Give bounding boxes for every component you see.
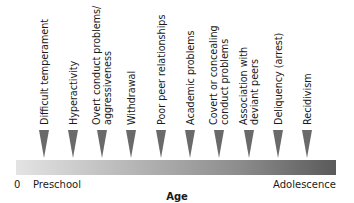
stage-label: Recidivism (294, 0, 320, 125)
arrow-down-icon (273, 130, 283, 158)
stage-label-line: Association with (238, 47, 249, 125)
stage-label: Difficult temperament (31, 0, 57, 125)
stage-label: Academic problems (177, 0, 203, 125)
stage-label-line: Hyperactivity (68, 61, 79, 125)
stage-label-line: Poor peer relationships (156, 15, 167, 125)
axis-start-label: Preschool (33, 179, 81, 190)
stage-label-line: deviant peers (249, 47, 260, 125)
stage-label-line: Recidivism (302, 73, 313, 125)
stage-label: Withdrawal (118, 0, 144, 125)
stage-label: Deliquency (arrest) (265, 0, 291, 125)
arrow-down-icon (39, 130, 49, 158)
stage-label-line: Difficult temperament (39, 19, 50, 125)
stage-label: Overt conduct problems/aggressiveness (89, 0, 115, 125)
arrow-down-icon (68, 130, 78, 158)
stage-label: Covert or concealingconduct problems (206, 0, 232, 125)
arrow-down-icon (302, 130, 312, 158)
stage-label: Hyperactivity (60, 0, 86, 125)
stage-label-line: Covert or concealing (208, 25, 219, 125)
age-gradient-bar (16, 160, 336, 175)
arrow-down-icon (185, 130, 195, 158)
axis-zero-label: 0 (14, 179, 20, 190)
arrow-down-icon (97, 130, 107, 158)
stage-label-line: aggressiveness (102, 6, 113, 125)
axis-title: Age (0, 191, 354, 202)
stage-label-line: Deliquency (arrest) (273, 33, 284, 125)
arrow-down-icon (156, 130, 166, 158)
axis-end-label: Adolescence (273, 179, 336, 190)
stage-label-line: Withdrawal (126, 71, 137, 125)
arrow-down-icon (126, 130, 136, 158)
stage-label-line: Overt conduct problems/ (91, 6, 102, 125)
stage-label-line: conduct problems (219, 25, 230, 125)
stage-label: Association withdeviant peers (236, 0, 262, 125)
arrow-down-icon (214, 130, 224, 158)
stage-label-line: Academic problems (185, 30, 196, 125)
arrow-down-icon (244, 130, 254, 158)
stage-label: Poor peer relationships (148, 0, 174, 125)
